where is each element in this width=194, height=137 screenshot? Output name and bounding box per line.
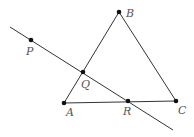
segment-ac (64, 101, 176, 103)
segment-ab (64, 12, 119, 103)
point-p-dot (29, 38, 34, 43)
point-a-label: A (65, 106, 74, 119)
point-p-label: P (25, 45, 34, 58)
point-q-label: Q (81, 78, 90, 91)
point-b-dot (117, 10, 122, 15)
segment-bc (119, 12, 176, 101)
points-layer (29, 10, 179, 106)
point-c-label: C (178, 104, 187, 117)
point-r-label: R (122, 105, 131, 118)
point-r-dot (126, 99, 131, 104)
line-pqr (10, 27, 173, 130)
geometry-diagram: BPQARC (0, 0, 194, 137)
point-a-dot (62, 101, 67, 106)
point-q-dot (81, 70, 86, 75)
point-c-dot (174, 99, 179, 104)
point-b-label: B (125, 7, 134, 20)
lines-layer (10, 27, 173, 130)
